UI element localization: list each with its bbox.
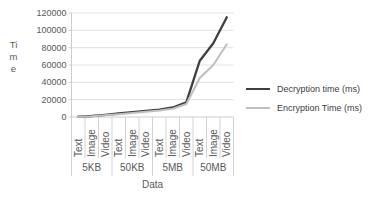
category-label: Text <box>154 138 165 157</box>
encryption-line-swatch <box>246 107 270 110</box>
group-label: 50MB <box>200 162 226 173</box>
y-tick-label: 120000 <box>36 8 66 18</box>
legend-label-decryption: Decryption time (ms) <box>277 84 360 94</box>
category-label: Text <box>73 138 84 157</box>
category-label: Text <box>194 138 205 157</box>
decryption-series-line <box>78 17 227 116</box>
group-label: 5KB <box>82 162 101 173</box>
category-label: Image <box>208 129 219 157</box>
y-axis-title: Time <box>8 39 19 75</box>
group-label: 5MB <box>162 162 183 173</box>
category-label: Video <box>221 131 232 157</box>
decryption-line-swatch <box>246 88 270 91</box>
category-label: Video <box>140 131 151 157</box>
group-label: 50KB <box>120 162 145 173</box>
category-label: Text <box>113 138 124 157</box>
y-tick-label: 40000 <box>41 77 66 87</box>
legend: Decryption time (ms) Encryption Time (ms… <box>246 84 362 113</box>
y-tick-label: 0 <box>61 112 66 122</box>
category-label: Video <box>100 131 111 157</box>
legend-item-decryption: Decryption time (ms) <box>246 84 362 94</box>
category-label: Image <box>86 129 97 157</box>
category-label: Video <box>181 131 192 157</box>
y-tick-label: 100000 <box>36 25 66 35</box>
legend-label-encryption: Encryption Time (ms) <box>277 103 362 113</box>
x-axis-title: Data <box>71 179 234 190</box>
y-tick-label: 60000 <box>41 60 66 70</box>
category-label: Image <box>167 129 178 157</box>
category-label: Image <box>127 129 138 157</box>
y-tick-label: 80000 <box>41 43 66 53</box>
y-tick-label: 20000 <box>41 95 66 105</box>
line-chart: 020000400006000080000100000120000TextIma… <box>0 0 386 201</box>
legend-item-encryption: Encryption Time (ms) <box>246 103 362 113</box>
